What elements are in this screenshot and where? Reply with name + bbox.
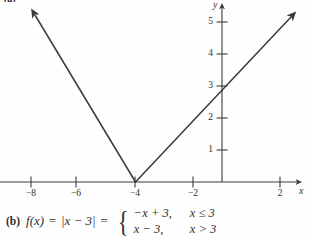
x-tick-label--8: −8 — [26, 189, 36, 199]
piecewise-brace: { — [118, 209, 129, 234]
part-b-equation: (b) f(x) = |x − 3| = { −x + 3, x ≤ 3 x −… — [6, 205, 216, 239]
y-tick-label-2: 2 — [203, 113, 213, 123]
case-1-condition: x ≤ 3 — [190, 205, 215, 222]
equals-sign-2: = — [100, 213, 109, 229]
y-tick-label-4: 4 — [203, 49, 213, 59]
x-tick-label--6: −6 — [71, 189, 81, 199]
part-b-label: (b) — [6, 215, 20, 227]
equals-sign-1: = — [48, 213, 57, 229]
case-row-2: x − 3, x > 3 — [134, 221, 216, 238]
absolute-value-expression: |x − 3| — [61, 213, 96, 229]
x-tick-label--4: −4 — [130, 189, 140, 199]
figure-container: (a) — [0, 0, 311, 240]
y-axis-label: y — [213, 0, 217, 10]
case-1-expression: −x + 3, — [134, 205, 188, 222]
function-curve — [35, 15, 291, 182]
piecewise-cases: −x + 3, x ≤ 3 x − 3, x > 3 — [134, 205, 216, 239]
y-tick-label-3: 3 — [203, 81, 213, 91]
x-tick-label--2: −2 — [188, 189, 198, 199]
case-2-condition: x > 3 — [190, 221, 216, 238]
case-row-1: −x + 3, x ≤ 3 — [134, 205, 216, 222]
x-axis-label: x — [299, 186, 303, 196]
y-tick-label-5: 5 — [203, 17, 213, 27]
y-tick-label-1: 1 — [203, 145, 213, 155]
x-axis — [0, 177, 297, 188]
function-name: f(x) — [26, 213, 44, 229]
curve-right-branch — [136, 17, 292, 182]
x-tick-label-2: 2 — [278, 189, 283, 199]
coordinate-plot — [0, 0, 311, 205]
case-2-expression: x − 3, — [134, 221, 188, 238]
curve-left-branch — [35, 15, 136, 182]
